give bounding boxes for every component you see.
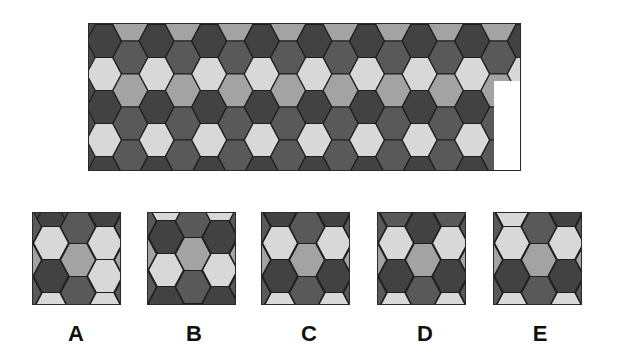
option-d-hex-pattern: [378, 213, 466, 305]
option-e-label[interactable]: E: [520, 321, 560, 347]
option-e-tile[interactable]: [493, 212, 582, 305]
option-c-tile[interactable]: [261, 212, 350, 305]
option-a-label[interactable]: A: [56, 321, 96, 347]
option-b-label[interactable]: B: [174, 321, 214, 347]
option-c-label[interactable]: C: [289, 321, 329, 347]
option-c-hex-pattern: [262, 213, 350, 305]
option-a-hex-pattern: [33, 213, 121, 305]
option-e-hex-pattern: [494, 213, 582, 305]
pattern-panel: ?: [88, 23, 521, 171]
hexagon-pattern-grid: [89, 24, 521, 171]
option-d-label[interactable]: D: [405, 321, 445, 347]
option-a-tile[interactable]: [32, 212, 121, 305]
option-d-tile[interactable]: [377, 212, 466, 305]
missing-piece-box: ?: [494, 81, 521, 171]
option-b-hex-pattern: [148, 213, 236, 305]
option-b-tile[interactable]: [147, 212, 236, 305]
